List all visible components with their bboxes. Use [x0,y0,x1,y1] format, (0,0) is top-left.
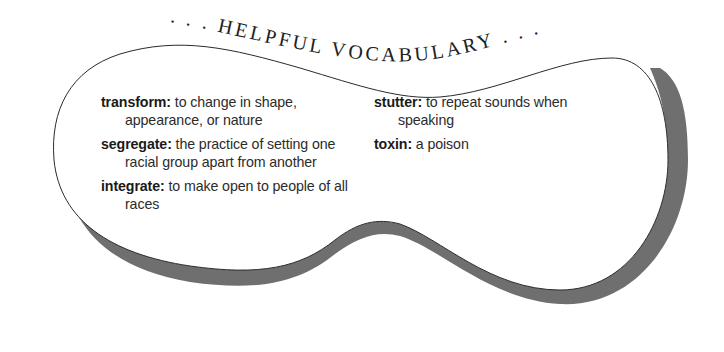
vocab-term: transform: [101,94,171,110]
vocab-entry-toxin: toxin: a poison [374,136,624,154]
vocab-entry-integrate: integrate: to make open to people of all… [101,178,371,213]
vocab-entry-stutter: stutter: to repeat sounds when speaking [374,94,624,129]
vocab-column-right: stutter: to repeat sounds when speaking … [374,94,624,161]
vocab-entry-transform: transform: to change in shape, appearanc… [101,94,371,129]
vocab-entry-segregate: segregate: the practice of setting one r… [101,136,371,171]
vocab-term: stutter: [374,94,422,110]
vocab-term: integrate: [101,178,165,194]
vocab-term: segregate: [101,136,172,152]
vocab-term: toxin: [374,136,412,152]
vocab-definition: a poison [412,136,469,152]
vocab-column-left: transform: to change in shape, appearanc… [101,94,371,220]
vocab-definition: to repeat sounds when speaking [398,94,567,128]
